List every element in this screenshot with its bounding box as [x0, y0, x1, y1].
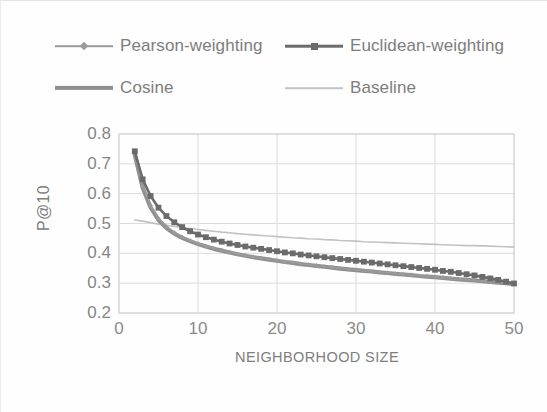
data-marker — [464, 271, 470, 277]
data-marker — [195, 232, 201, 238]
data-marker — [179, 224, 185, 230]
data-marker — [480, 274, 486, 280]
data-marker — [306, 253, 312, 259]
data-marker — [393, 262, 399, 268]
x-axis-tick-label: 20 — [257, 319, 297, 339]
data-marker — [258, 246, 264, 252]
y-axis-tick-label: 0.8 — [67, 124, 111, 144]
data-marker — [401, 263, 407, 269]
x-axis-tick-label: 0 — [99, 319, 139, 339]
data-marker — [274, 248, 280, 254]
data-marker — [282, 250, 288, 256]
data-marker — [329, 255, 335, 261]
x-axis-tick-label: 40 — [415, 319, 455, 339]
y-axis-tick-label: 0.3 — [67, 273, 111, 293]
y-axis-tick-label: 0.4 — [67, 243, 111, 263]
series-pearson-weighting — [133, 151, 517, 286]
data-marker — [369, 260, 375, 266]
plot-area: 0.80.70.60.50.40.30.2 01020304050 P@10 N… — [1, 1, 547, 412]
data-marker — [266, 247, 272, 253]
data-marker — [503, 279, 509, 285]
data-marker — [219, 239, 225, 245]
y-axis-tick-label: 0.7 — [67, 154, 111, 174]
x-axis-label: NEIGHBORHOOD SIZE — [119, 349, 515, 365]
data-marker — [353, 258, 359, 264]
data-marker — [203, 234, 209, 240]
data-marker — [432, 267, 438, 273]
data-marker — [187, 228, 193, 234]
data-marker — [448, 269, 454, 275]
data-marker — [456, 270, 462, 276]
data-series-layer — [132, 148, 517, 286]
data-marker — [377, 261, 383, 267]
x-axis-tick-label: 50 — [494, 319, 534, 339]
y-axis-tick-label: 0.5 — [67, 214, 111, 234]
chart-figure: Pearson-weighting Euclidean-weighting Co… — [0, 0, 547, 412]
data-marker — [227, 241, 233, 247]
data-marker — [156, 205, 162, 211]
data-marker — [472, 273, 478, 279]
data-marker — [298, 252, 304, 258]
data-marker — [211, 237, 217, 243]
data-marker — [132, 148, 138, 154]
data-marker — [243, 244, 249, 250]
data-marker — [385, 261, 391, 267]
data-marker — [314, 253, 320, 259]
data-marker — [164, 213, 170, 219]
x-axis-tick-label: 10 — [178, 319, 218, 339]
data-marker — [171, 219, 177, 225]
x-axis-tick-label: 30 — [336, 319, 376, 339]
y-axis-tick-label: 0.6 — [67, 184, 111, 204]
data-marker — [408, 264, 414, 270]
data-marker — [290, 250, 296, 256]
data-marker — [495, 277, 501, 283]
data-marker — [322, 254, 328, 260]
data-marker — [424, 266, 430, 272]
data-marker — [140, 176, 146, 182]
data-marker — [361, 259, 367, 265]
data-marker — [148, 193, 154, 199]
series-line — [135, 151, 514, 283]
data-marker — [416, 265, 422, 271]
data-marker — [345, 257, 351, 263]
data-marker — [250, 245, 256, 251]
y-axis-label: P@10 — [35, 163, 53, 253]
data-marker — [337, 256, 343, 262]
data-marker — [511, 281, 517, 287]
data-marker — [440, 268, 446, 274]
data-marker — [235, 242, 241, 248]
data-marker — [487, 275, 493, 281]
y-axis-ticks: 0.80.70.60.50.40.30.2 — [61, 1, 111, 412]
